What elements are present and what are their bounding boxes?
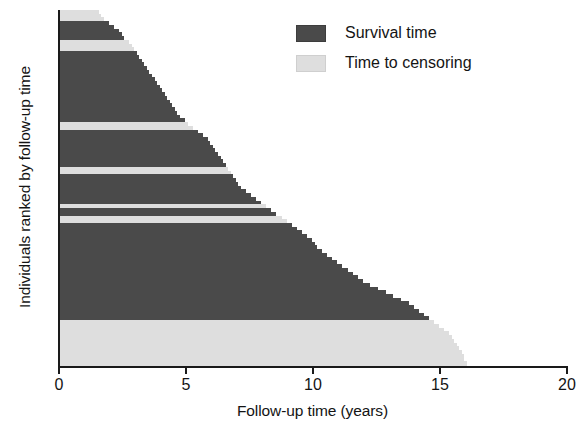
legend-swatch-survival-time	[296, 25, 326, 42]
y-axis-line	[58, 10, 60, 367]
survival-followup-chart: Individuals ranked by follow-up time 051…	[0, 0, 582, 439]
chart-legend: Survival time Time to censoring	[296, 18, 472, 78]
bar-individual	[58, 361, 467, 365]
x-axis-tick	[185, 366, 187, 374]
x-axis-tick-label: 10	[293, 376, 333, 394]
x-axis-tick-label: 0	[39, 376, 79, 394]
x-axis-tick-label: 5	[166, 376, 206, 394]
y-axis-title: Individuals ranked by follow-up time	[16, 2, 34, 372]
x-axis-tick	[58, 366, 60, 374]
x-axis-tick	[439, 366, 441, 374]
x-axis-tick	[566, 366, 568, 374]
legend-item-survival-time: Survival time	[296, 18, 472, 48]
x-axis-tick-label: 20	[547, 376, 582, 394]
legend-item-time-to-censoring: Time to censoring	[296, 48, 472, 78]
x-axis-tick	[312, 366, 314, 374]
legend-label-survival-time: Survival time	[345, 24, 437, 42]
x-axis-title: Follow-up time (years)	[58, 402, 567, 420]
x-axis-tick-label: 15	[420, 376, 460, 394]
legend-swatch-time-to-censoring	[296, 55, 326, 72]
legend-label-time-to-censoring: Time to censoring	[345, 54, 472, 72]
